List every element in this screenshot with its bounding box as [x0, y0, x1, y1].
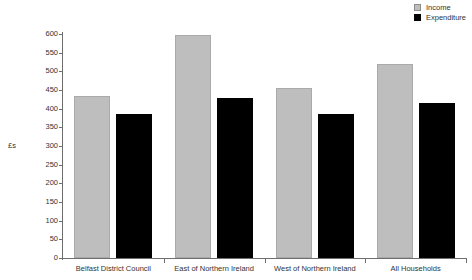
x-axis-category-label: East of Northern Ireland: [174, 264, 254, 273]
y-axis-tick-mark: [59, 90, 63, 91]
y-axis-tick-mark: [59, 258, 63, 259]
bar-expenditure: [116, 114, 152, 258]
y-axis-tick-label: 250: [0, 160, 58, 169]
y-axis-tick-label: 50: [0, 234, 58, 243]
y-axis-tick-mark: [59, 109, 63, 110]
legend-item-expenditure: Expenditure: [414, 14, 466, 22]
y-axis-tick-mark: [59, 183, 63, 184]
y-axis-tick-mark: [59, 71, 63, 72]
plot-area: 050100150200250300350400450500550600: [63, 34, 466, 258]
y-axis-tick-label: 500: [0, 66, 58, 75]
legend-label-expenditure: Expenditure: [426, 14, 466, 22]
y-axis-tick-label: 200: [0, 178, 58, 187]
legend-swatch-expenditure-icon: [414, 14, 421, 21]
y-axis-tick-label: 600: [0, 29, 58, 38]
y-axis-tick-label: 100: [0, 216, 58, 225]
x-axis-category-label: All Households: [391, 264, 441, 273]
y-axis-tick-mark: [59, 127, 63, 128]
y-axis-tick-label: 450: [0, 85, 58, 94]
y-axis-tick-label: 400: [0, 104, 58, 113]
y-axis-tick-label: 350: [0, 122, 58, 131]
x-axis-category-label: Belfast District Council: [76, 264, 151, 273]
y-axis-tick-mark: [59, 239, 63, 240]
bar-income: [377, 64, 413, 258]
bar-expenditure: [419, 103, 455, 258]
y-axis-tick-mark: [59, 202, 63, 203]
y-axis-tick-label: 300: [0, 141, 58, 150]
x-axis-category-label: West of Northern Ireland: [274, 264, 356, 273]
bar-income: [175, 35, 211, 258]
y-axis-tick-mark: [59, 146, 63, 147]
bar-income: [74, 96, 110, 258]
x-axis-category-separator: [265, 258, 266, 263]
chart-legend: Income Expenditure: [414, 4, 466, 21]
bar-income: [276, 88, 312, 258]
legend-swatch-income-icon: [414, 4, 421, 11]
y-axis-tick-mark: [59, 53, 63, 54]
bar-chart: Income Expenditure £s 050100150200250300…: [0, 0, 472, 280]
bar-expenditure: [318, 114, 354, 258]
y-axis-tick-mark: [59, 221, 63, 222]
x-axis-category-separator: [365, 258, 366, 263]
y-axis-tick-label: 0: [0, 253, 58, 262]
y-axis-tick-mark: [59, 165, 63, 166]
x-axis-category-separator: [164, 258, 165, 263]
y-axis-tick-label: 150: [0, 197, 58, 206]
legend-label-income: Income: [426, 4, 451, 12]
x-axis-category-separator: [466, 258, 467, 263]
bar-expenditure: [217, 98, 253, 258]
legend-item-income: Income: [414, 4, 451, 12]
y-axis-tick-mark: [59, 34, 63, 35]
y-axis-tick-label: 550: [0, 48, 58, 57]
